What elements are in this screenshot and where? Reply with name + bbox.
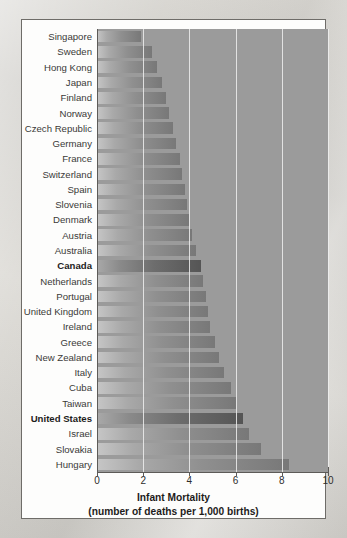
bar-row: [97, 289, 328, 304]
category-label-sweden: Sweden: [0, 46, 92, 57]
bar-row: [97, 457, 328, 472]
bar-row: [97, 212, 328, 227]
bar-greece: [97, 336, 215, 348]
bar-row: [97, 228, 328, 243]
x-axis-title: Infant Mortality (number of deaths per 1…: [22, 491, 325, 518]
bar-finland: [97, 92, 166, 104]
bar-row: [97, 243, 328, 258]
bar-chart: SingaporeSwedenHong KongJapanFinlandNorw…: [22, 20, 325, 518]
category-label-japan: Japan: [0, 77, 92, 88]
x-axis-line: [97, 472, 329, 473]
bar-france: [97, 153, 180, 165]
bar-row: [97, 90, 328, 105]
bar-row: [97, 441, 328, 456]
x-axis-title-sub: (number of deaths per 1,000 births): [22, 505, 325, 519]
bar-row: [97, 273, 328, 288]
category-label-united-kingdom: United Kingdom: [0, 306, 92, 317]
bar-austria: [97, 229, 192, 241]
bar-row: [97, 105, 328, 120]
bar-israel: [97, 428, 249, 440]
bar-row: [97, 197, 328, 212]
bar-japan: [97, 77, 162, 89]
gridline-8: [282, 29, 283, 472]
category-label-ireland: Ireland: [0, 321, 92, 332]
bar-row: [97, 411, 328, 426]
category-label-hong-kong: Hong Kong: [0, 62, 92, 73]
bar-norway: [97, 107, 169, 119]
bar-italy: [97, 367, 224, 379]
category-label-slovenia: Slovenia: [0, 199, 92, 210]
bar-spain: [97, 184, 185, 196]
gridline-4: [189, 29, 190, 472]
category-label-norway: Norway: [0, 108, 92, 119]
bar-switzerland: [97, 168, 182, 180]
category-label-united-states: United States: [0, 413, 92, 424]
category-label-netherlands: Netherlands: [0, 276, 92, 287]
bar-cuba: [97, 382, 231, 394]
bar-new-zealand: [97, 352, 219, 364]
category-label-cuba: Cuba: [0, 382, 92, 393]
bar-czech-republic: [97, 122, 173, 134]
bar-row: [97, 182, 328, 197]
bar-row: [97, 258, 328, 273]
bar-taiwan: [97, 397, 236, 409]
bar-canada: [97, 260, 201, 272]
tick-label-8: 8: [262, 475, 302, 486]
x-axis-title-main: Infant Mortality: [137, 492, 210, 503]
category-label-singapore: Singapore: [0, 31, 92, 42]
bar-ireland: [97, 321, 210, 333]
y-axis-line: [97, 29, 98, 472]
category-label-denmark: Denmark: [0, 214, 92, 225]
bar-row: [97, 29, 328, 44]
category-label-germany: Germany: [0, 138, 92, 149]
bar-row: [97, 396, 328, 411]
category-label-finland: Finland: [0, 92, 92, 103]
tick-label-4: 4: [169, 475, 209, 486]
bar-row: [97, 44, 328, 59]
bar-row: [97, 304, 328, 319]
bar-hong-kong: [97, 61, 157, 73]
category-label-new-zealand: New Zealand: [0, 352, 92, 363]
category-label-switzerland: Switzerland: [0, 169, 92, 180]
bar-row: [97, 380, 328, 395]
bar-row: [97, 136, 328, 151]
plot-area: [97, 29, 328, 472]
bar-row: [97, 426, 328, 441]
category-label-czech-republic: Czech Republic: [0, 123, 92, 134]
bar-row: [97, 365, 328, 380]
bar-row: [97, 350, 328, 365]
gridline-6: [236, 29, 237, 472]
bar-row: [97, 335, 328, 350]
bar-row: [97, 166, 328, 181]
bar-row: [97, 121, 328, 136]
tick-label-10: 10: [308, 475, 347, 486]
bar-row: [97, 75, 328, 90]
bar-row: [97, 60, 328, 75]
category-label-slovakia: Slovakia: [0, 444, 92, 455]
category-label-canada: Canada: [0, 260, 92, 271]
gridline-10: [328, 29, 329, 472]
category-label-hungary: Hungary: [0, 459, 92, 470]
right-axis-cap: [328, 467, 329, 472]
category-label-spain: Spain: [0, 184, 92, 195]
tick-label-2: 2: [123, 475, 163, 486]
bar-slovenia: [97, 199, 187, 211]
figure-frame: SingaporeSwedenHong KongJapanFinlandNorw…: [21, 19, 326, 519]
category-label-israel: Israel: [0, 428, 92, 439]
category-label-portugal: Portugal: [0, 291, 92, 302]
bar-australia: [97, 245, 196, 257]
gridline-2: [143, 29, 144, 472]
category-label-taiwan: Taiwan: [0, 398, 92, 409]
category-label-austria: Austria: [0, 230, 92, 241]
tick-label-6: 6: [216, 475, 256, 486]
bar-united-kingdom: [97, 306, 208, 318]
category-label-italy: Italy: [0, 367, 92, 378]
bar-row: [97, 151, 328, 166]
bar-singapore: [97, 31, 141, 43]
bar-netherlands: [97, 275, 203, 287]
bars-container: [97, 29, 328, 472]
tick-label-0: 0: [77, 475, 117, 486]
bar-hungary: [97, 459, 289, 471]
category-label-france: France: [0, 153, 92, 164]
category-label-australia: Australia: [0, 245, 92, 256]
